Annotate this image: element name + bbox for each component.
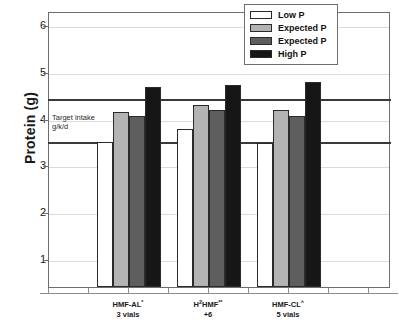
x-tick-mark [168, 288, 169, 293]
x-tick-mark [368, 288, 369, 293]
legend-item-label: Low P [278, 11, 305, 20]
bar [289, 116, 305, 287]
legend-item-label: High P [278, 50, 307, 59]
bar [129, 116, 145, 287]
legend-swatch-icon [250, 11, 272, 19]
x-axis-line [40, 293, 398, 294]
x-tick-mark [328, 288, 329, 293]
chart-legend: Low PExpected PExpected PHigh P [244, 4, 338, 65]
legend-item[interactable]: High P [250, 48, 332, 60]
x-group-label: HMF-AL*3 vials [83, 298, 173, 321]
x-group-name: HMF-CL^ [272, 300, 304, 309]
legend-item[interactable]: Expected P [250, 22, 332, 34]
bar [177, 129, 193, 287]
bar [225, 85, 241, 287]
x-group-name: HMF-AL* [113, 300, 144, 309]
legend-swatch-icon [250, 50, 272, 58]
x-group-detail: +6 [163, 310, 253, 321]
legend-item-label: Expected P [278, 37, 327, 46]
gridline [49, 74, 389, 75]
legend-swatch-icon [250, 37, 272, 45]
x-tick-mark [88, 288, 89, 293]
bar [209, 110, 225, 287]
x-group-label: H2HMF**+6 [163, 298, 253, 321]
x-tick-mark [48, 288, 49, 293]
bar [273, 110, 289, 287]
x-tick-mark [128, 288, 129, 293]
x-tick-mark [208, 288, 209, 293]
bar [113, 112, 129, 287]
legend-item[interactable]: Expected P [250, 35, 332, 47]
bar [305, 82, 321, 287]
x-group-name: H2HMF** [193, 300, 222, 309]
bar [257, 143, 273, 287]
x-group-detail: 3 vials [83, 310, 173, 321]
bar [193, 105, 209, 287]
x-group-detail: 5 vials [243, 310, 333, 321]
legend-item[interactable]: Low P [250, 9, 332, 21]
target-intake-line2: g/k/d [52, 122, 68, 131]
chart-figure: Protein (g) 123456 Target intakeg/k/d Lo… [0, 0, 399, 327]
legend-swatch-icon [250, 24, 272, 32]
x-tick-mark [288, 288, 289, 293]
x-tick-mark [248, 288, 249, 293]
gridline [49, 27, 389, 28]
plot-area: Target intakeg/k/d [48, 12, 390, 288]
legend-item-label: Expected P [278, 24, 327, 33]
target-intake-label: Target intakeg/k/d [52, 113, 95, 132]
bar [145, 87, 161, 287]
x-group-label: HMF-CL^5 vials [243, 298, 333, 321]
bar [97, 142, 113, 287]
